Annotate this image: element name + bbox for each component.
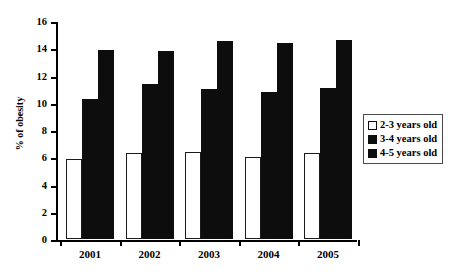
x-tick [60, 240, 62, 246]
bar [320, 88, 336, 239]
bar [142, 84, 158, 239]
bar-group [126, 21, 174, 239]
y-tick-label: 2 [42, 206, 47, 219]
y-tick: 0 [51, 240, 57, 242]
bar-group [304, 21, 352, 239]
y-tick-label: 4 [42, 179, 47, 192]
bar [158, 51, 174, 239]
x-tick [179, 240, 181, 246]
y-tick: 6 [51, 158, 57, 160]
bar [126, 153, 142, 239]
x-axis-line [56, 240, 357, 242]
bar [201, 89, 217, 239]
x-tick [358, 240, 360, 246]
bar [336, 40, 352, 239]
y-tick: 12 [51, 77, 57, 79]
legend-item: 3-4 years old [368, 132, 437, 146]
x-axis-label: 2005 [288, 248, 368, 260]
bar-group [245, 21, 293, 239]
legend-label: 3-4 years old [380, 133, 437, 145]
y-tick-label: 6 [42, 151, 47, 164]
legend-item: 2-3 years old [368, 118, 437, 132]
chart-legend: 2-3 years old3-4 years old4-5 years old [363, 114, 443, 164]
y-axis-title: % of obesity [14, 69, 25, 179]
bar [304, 153, 320, 239]
legend-swatch-filled-icon [368, 135, 377, 144]
y-tick: 2 [51, 213, 57, 215]
y-tick-label: 0 [42, 233, 47, 246]
y-tick-label: 12 [37, 70, 48, 83]
bar [185, 152, 201, 239]
legend-swatch-open-icon [368, 121, 377, 130]
obesity-bar-chart: % of obesity 0246810121416 2001200220032… [0, 0, 465, 279]
legend-swatch-filled-icon [368, 149, 377, 158]
y-tick-label: 8 [42, 124, 47, 137]
plot-area: 0246810121416 20012002200320042005 [56, 22, 356, 240]
y-tick: 4 [51, 186, 57, 188]
bar [98, 50, 114, 239]
legend-label: 2-3 years old [380, 119, 437, 131]
bar [82, 99, 98, 239]
legend-label: 4-5 years old [380, 147, 437, 159]
bar [277, 43, 293, 239]
bar-group [185, 21, 233, 239]
bar [245, 157, 261, 239]
x-tick [298, 240, 300, 246]
y-tick-label: 14 [37, 42, 48, 55]
bar [217, 41, 233, 239]
legend-item: 4-5 years old [368, 146, 437, 160]
bar [66, 159, 82, 239]
bar-group [66, 21, 114, 239]
y-tick: 16 [51, 22, 57, 24]
y-tick-label: 10 [37, 97, 48, 110]
bar [261, 92, 277, 239]
y-tick: 8 [51, 131, 57, 133]
x-tick [120, 240, 122, 246]
y-tick: 14 [51, 49, 57, 51]
x-tick [239, 240, 241, 246]
y-tick: 10 [51, 104, 57, 106]
y-tick-label: 16 [37, 15, 48, 28]
